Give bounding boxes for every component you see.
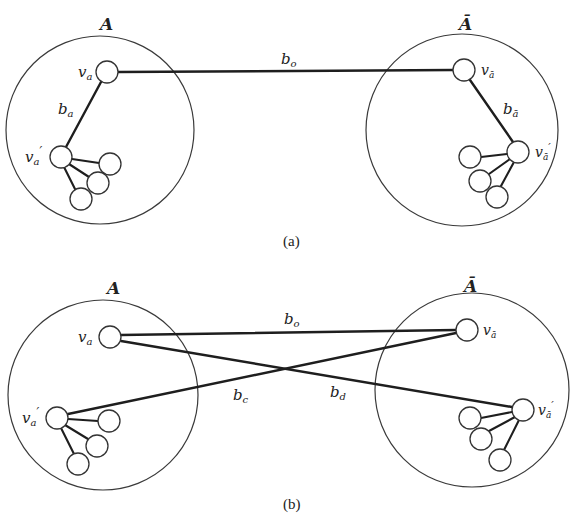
node-label-v-a-bar: vā xyxy=(483,322,496,340)
node-subtree-leaf xyxy=(459,407,481,429)
node-v-a-prime xyxy=(50,146,72,168)
node-label-v-a-bar-prime: vā′ xyxy=(535,141,551,162)
subtree-edge xyxy=(72,159,99,163)
node-v-a-prime xyxy=(46,407,68,429)
subtree-edge xyxy=(68,419,98,421)
node-label-v-a-bar: vā xyxy=(481,62,494,80)
node-subtree-leaf xyxy=(459,146,481,168)
node-label-v-a-bar-prime: vā′ xyxy=(538,399,554,420)
subtree-edge xyxy=(489,159,510,174)
caption-a: (a) xyxy=(283,233,300,250)
edge-label-b-o: bo xyxy=(281,50,297,69)
subtree-edge xyxy=(65,425,88,439)
node-label-v-a: va xyxy=(78,328,92,347)
node-v-a xyxy=(96,61,118,83)
node-subtree-leaf xyxy=(87,172,109,194)
caption-b: (b) xyxy=(283,496,301,513)
edge-b-o xyxy=(121,330,456,335)
panel-a: A Ā va va′ vā vā′ bo ba bā (a) xyxy=(6,14,558,250)
subtree-edge xyxy=(61,428,74,454)
node-subtree-leaf xyxy=(70,188,92,210)
node-subtree-leaf xyxy=(86,435,108,457)
edge-label-b-o: bo xyxy=(284,310,300,329)
edge-label-b-a: ba xyxy=(58,100,74,119)
edge-b-o xyxy=(118,70,453,72)
node-subtree-leaf xyxy=(489,449,511,471)
subtree-edge xyxy=(504,420,519,450)
subtree-edge xyxy=(69,164,89,177)
node-subtree-leaf xyxy=(470,428,492,450)
region-label-A-bar: Ā xyxy=(457,14,472,34)
region-label-A: A xyxy=(98,14,113,34)
node-v-a-bar xyxy=(456,319,478,341)
node-subtree-leaf xyxy=(99,153,121,175)
node-v-a xyxy=(99,326,121,348)
subtree-edge xyxy=(64,167,75,189)
subtree-edge xyxy=(481,412,512,418)
figure-canvas: A Ā va va′ vā vā′ bo ba bā (a) xyxy=(0,0,570,518)
node-v-a-bar xyxy=(453,59,475,81)
edge-b-c xyxy=(68,333,456,414)
edge-label-b-a-bar: bā xyxy=(503,100,519,119)
region-label-A-bar: Ā xyxy=(462,276,477,296)
node-subtree-leaf xyxy=(486,186,508,208)
edge-b-d xyxy=(121,341,512,407)
node-subtree-leaf xyxy=(469,170,491,192)
panel-b: A Ā va va′ vā vā′ bo bc bd (b) xyxy=(8,276,569,513)
node-label-v-a-prime: va′ xyxy=(25,145,42,167)
node-v-a-bar-prime xyxy=(512,399,534,421)
node-v-a-bar-prime xyxy=(507,141,529,163)
subtree-edge xyxy=(501,162,514,186)
edge-label-b-d: bd xyxy=(330,383,346,402)
node-label-v-a-prime: va′ xyxy=(22,406,39,428)
node-subtree-leaf xyxy=(67,453,89,475)
subtree-edge xyxy=(481,154,507,157)
region-label-A: A xyxy=(105,278,120,298)
edge-label-b-c: bc xyxy=(233,386,249,405)
node-subtree-leaf xyxy=(98,410,120,432)
subtree-edge xyxy=(489,417,515,431)
node-label-v-a: va xyxy=(78,63,92,82)
